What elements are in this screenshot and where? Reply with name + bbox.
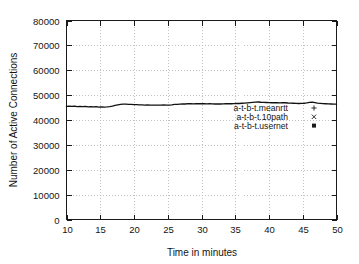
chart-container: 0100002000030000400005000060000700008000… bbox=[0, 0, 359, 264]
y-tick-label: 40000 bbox=[33, 115, 59, 126]
x-axis-title: Time in minutes bbox=[167, 247, 237, 258]
y-tick-label: 80000 bbox=[33, 16, 59, 27]
y-axis-tick-labels: 0100002000030000400005000060000700008000… bbox=[33, 16, 59, 226]
y-tick-label: 60000 bbox=[33, 65, 59, 76]
y-tick-label: 30000 bbox=[33, 140, 59, 151]
x-tick-label: 40 bbox=[264, 224, 275, 235]
x-tick-label: 20 bbox=[129, 224, 140, 235]
x-tick-label: 30 bbox=[197, 224, 208, 235]
x-tick-label: 45 bbox=[298, 224, 309, 235]
x-axis-tick-labels: 101520253035404550 bbox=[62, 224, 343, 235]
x-tick-label: 50 bbox=[332, 224, 343, 235]
y-tick-label: 20000 bbox=[33, 165, 59, 176]
legend-marker-square bbox=[312, 124, 316, 128]
line-chart: 0100002000030000400005000060000700008000… bbox=[0, 0, 359, 264]
x-tick-label: 35 bbox=[230, 224, 241, 235]
y-tick-label: 10000 bbox=[33, 190, 59, 201]
x-tick-label: 15 bbox=[95, 224, 106, 235]
y-axis-title: Number of Active Connections bbox=[8, 53, 19, 188]
x-tick-label: 10 bbox=[62, 224, 73, 235]
y-tick-label: 50000 bbox=[33, 90, 59, 101]
y-tick-label: 0 bbox=[54, 215, 59, 226]
legend-label-2: a-t-b-t.usernet bbox=[234, 121, 289, 131]
x-tick-label: 25 bbox=[163, 224, 174, 235]
y-tick-label: 70000 bbox=[33, 40, 59, 51]
